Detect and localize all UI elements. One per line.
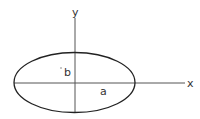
x-axis-label: x — [187, 77, 194, 90]
point-marker — [60, 67, 61, 68]
semi-major-label: a — [100, 85, 107, 98]
semi-minor-label: b — [64, 66, 71, 79]
ellipse-diagram: y x b a — [0, 0, 200, 119]
diagram-svg: y x b a — [0, 0, 200, 119]
y-axis-label: y — [72, 6, 79, 19]
